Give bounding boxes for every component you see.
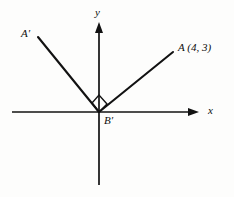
geometry-figure: x y A (4, 3) A′ B′ bbox=[0, 0, 234, 197]
x-axis-arrowhead bbox=[188, 108, 199, 116]
y-axis-label: y bbox=[95, 7, 100, 18]
y-axis-arrowhead bbox=[95, 22, 103, 33]
ray-oa-prime bbox=[38, 37, 99, 112]
x-axis-label: x bbox=[208, 105, 213, 116]
point-a-prime-label: A′ bbox=[21, 28, 30, 39]
point-a-label: A (4, 3) bbox=[178, 42, 211, 53]
diagram-canvas bbox=[0, 0, 234, 197]
point-b-prime-label: B′ bbox=[104, 115, 113, 126]
ray-oa bbox=[99, 52, 173, 112]
